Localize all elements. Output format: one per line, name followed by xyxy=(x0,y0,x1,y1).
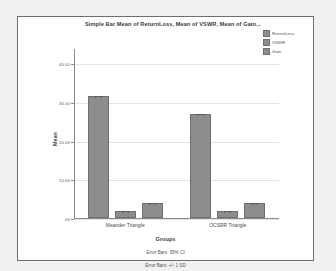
y-tick-label: 40.00 xyxy=(59,62,70,67)
page-background: Simple Bar Mean of ReturnLoss, Mean of V… xyxy=(0,0,336,271)
y-tick-label: .00 xyxy=(64,217,70,222)
plot-area: .0010.0020.0030.0040.00 xyxy=(74,49,279,219)
error-bar xyxy=(224,211,231,213)
legend-item-vswr[interactable]: VSWR xyxy=(263,38,309,46)
chart-frame: Simple Bar Mean of ReturnLoss, Mean of V… xyxy=(17,16,314,261)
bar[interactable] xyxy=(142,203,163,218)
error-bar xyxy=(149,203,156,205)
x-axis-line xyxy=(74,218,279,219)
gridline xyxy=(74,219,279,220)
error-bar xyxy=(197,114,204,116)
footnote-error-bars-sd: Error Bars: +/- 1 SD xyxy=(18,263,313,268)
legend-label-vswr: VSWR xyxy=(272,40,285,45)
legend-label-returnloss: ReturnLoss xyxy=(272,31,294,36)
y-tick-label: 10.00 xyxy=(59,178,70,183)
legend-item-returnloss[interactable]: ReturnLoss xyxy=(263,29,309,37)
y-tick-label: 30.00 xyxy=(59,101,70,106)
chart-title: Simple Bar Mean of ReturnLoss, Mean of V… xyxy=(48,21,298,27)
gridline xyxy=(74,64,279,65)
y-tick-mark xyxy=(71,219,74,220)
legend-swatch-vswr xyxy=(263,39,270,46)
y-axis-title: Mean xyxy=(52,132,58,146)
x-axis-title: Groups xyxy=(18,236,313,242)
bar[interactable] xyxy=(244,203,265,218)
x-category-label: Meander Triangle xyxy=(106,222,145,228)
y-axis-line xyxy=(74,49,75,219)
bar[interactable] xyxy=(190,114,211,218)
footnote-error-bars-ci: Error Bars: 95% CI xyxy=(18,250,313,255)
y-tick-label: 20.00 xyxy=(59,139,70,144)
error-bar xyxy=(95,96,102,98)
error-bar xyxy=(251,203,258,205)
legend-swatch-returnloss xyxy=(263,30,270,37)
bar[interactable] xyxy=(88,96,109,218)
x-category-label: OCSRR Triangle xyxy=(209,222,246,228)
error-bar xyxy=(122,211,129,213)
